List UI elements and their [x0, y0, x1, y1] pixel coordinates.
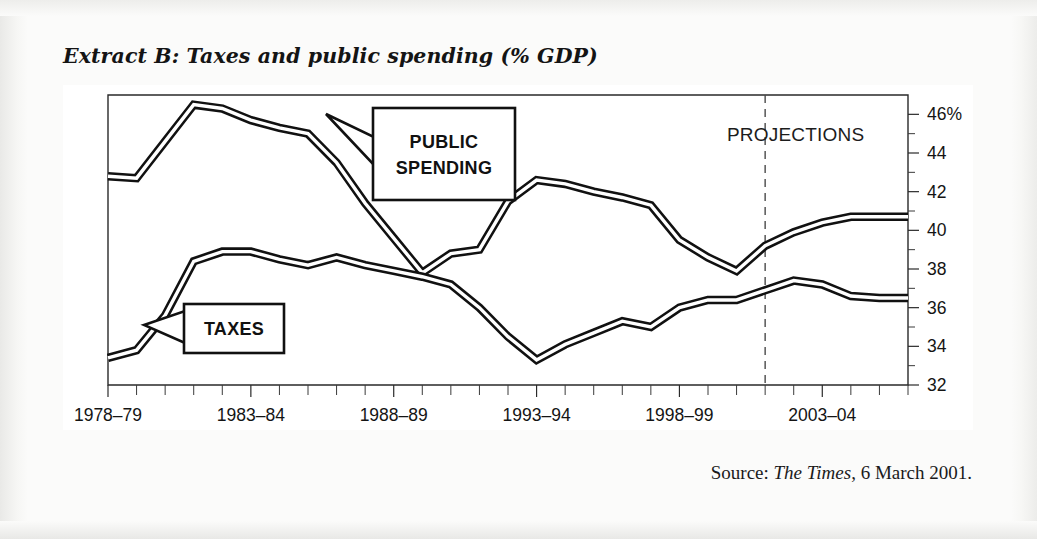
paper-edge-left — [0, 0, 28, 539]
x-tick-label: 1978–79 — [74, 405, 142, 425]
source-publication: The Times — [774, 462, 852, 483]
source-note: Source: The Times, 6 March 2001. — [711, 462, 972, 484]
x-tick-label: 1993–94 — [503, 405, 571, 425]
y-tick-label: 44 — [927, 143, 947, 163]
y-tick-label: 34 — [927, 336, 947, 356]
page-title: Extract B: Taxes and public spending (% … — [63, 44, 598, 68]
y-tick-label: 32 — [927, 375, 946, 395]
paper-edge-top — [0, 0, 1037, 16]
y-tick-label: 42 — [927, 182, 946, 202]
public-spending-callout-box — [373, 108, 515, 200]
page-root: Extract B: Taxes and public spending (% … — [0, 0, 1037, 539]
y-tick-label: 36 — [927, 298, 946, 318]
x-tick-label: 2003–04 — [788, 405, 856, 425]
x-tick-label: 1988–89 — [360, 405, 428, 425]
source-suffix: , 6 March 2001. — [851, 462, 972, 483]
y-tick-label: 38 — [927, 259, 946, 279]
paper-edge-right — [1011, 0, 1037, 539]
public-spending-label-line1: PUBLIC — [410, 132, 479, 152]
paper-edge-bottom — [0, 521, 1037, 539]
line-chart: PROJECTIONS PUBLIC SPENDING TAXES 323436… — [63, 85, 973, 430]
public-spending-label-line2: SPENDING — [396, 158, 492, 178]
projections-label: PROJECTIONS — [727, 124, 864, 145]
chart-figure: PROJECTIONS PUBLIC SPENDING TAXES 323436… — [63, 85, 973, 430]
source-prefix: Source: — [711, 462, 774, 483]
y-tick-label: 40 — [927, 220, 947, 240]
taxes-label: TAXES — [204, 319, 264, 339]
y-tick-label: 46% — [927, 104, 962, 124]
x-tick-label: 1983–84 — [217, 405, 285, 425]
x-tick-label: 1998–99 — [645, 405, 713, 425]
